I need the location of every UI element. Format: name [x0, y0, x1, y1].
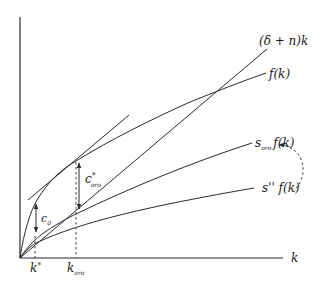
k-golden-label-main: k — [67, 261, 74, 275]
depreciation-line — [20, 49, 267, 258]
depreciation-line-label: (δ + n)k — [259, 34, 308, 48]
x-axis-label: k — [291, 251, 298, 265]
c0-label: c0 — [41, 212, 51, 226]
savings-low-label: s'' f(k) — [262, 181, 300, 195]
k-star-label-main: k — [30, 261, 37, 275]
k-golden-label-sub: oro — [74, 269, 84, 276]
savings-golden-label-fk: f(k) — [272, 136, 294, 150]
production-curve-label: f(k) — [268, 67, 290, 81]
c-golden-label-sub: oro — [91, 181, 101, 188]
c0-label-sub: 0 — [47, 219, 51, 226]
c-golden-label: c*oro — [85, 171, 101, 188]
k-star-label: k* — [30, 261, 41, 275]
savings-golden-label-sub: oro — [261, 144, 271, 151]
c-golden-label-sup: * — [92, 171, 96, 180]
k-golden-label: koro — [67, 261, 85, 276]
production-curve — [20, 73, 266, 258]
savings-golden-label: sorof(k) — [255, 136, 295, 151]
k-star-label-sup: * — [37, 261, 41, 270]
savings-low-curve — [20, 188, 254, 258]
golden-rule-diagram: (δ + n)k f(k) sorof(k) s'' f(k) c0 c*oro… — [0, 0, 322, 287]
